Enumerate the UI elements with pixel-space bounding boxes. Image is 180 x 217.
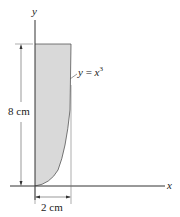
curve-label: y = x3: [78, 66, 103, 78]
curve-label-exponent: 3: [100, 65, 104, 73]
height-arrow-bottom: [20, 181, 23, 186]
x-axis-label: x: [167, 180, 172, 191]
width-arrow-right: [66, 196, 71, 199]
width-dimension-label: 2 cm: [41, 202, 63, 213]
shaded-region: [35, 44, 71, 186]
curve-label-eq: =: [83, 66, 95, 78]
height-dimension-label: 8 cm: [8, 106, 30, 117]
width-arrow-left: [35, 196, 40, 199]
diagram: y x y = x3 8 cm 2 cm: [0, 0, 180, 217]
y-axis-label: y: [32, 6, 37, 17]
height-arrow-top: [20, 44, 23, 49]
curve-label-leader: [70, 74, 77, 79]
